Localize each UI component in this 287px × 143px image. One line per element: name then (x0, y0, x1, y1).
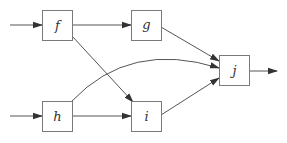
node-j: j (220, 56, 250, 86)
node-i: i (132, 102, 162, 132)
node-label-g: g (142, 17, 150, 32)
node-label-h: h (53, 109, 61, 124)
edge-i-j (161, 78, 219, 115)
node-f: f (43, 11, 73, 41)
node-g: g (132, 11, 162, 41)
node-label-i: i (144, 109, 148, 124)
dependency-graph: f g h i j (0, 0, 287, 143)
edge-h-j-curved (72, 59, 219, 101)
node-h: h (43, 102, 73, 132)
edge-g-j (161, 27, 219, 61)
